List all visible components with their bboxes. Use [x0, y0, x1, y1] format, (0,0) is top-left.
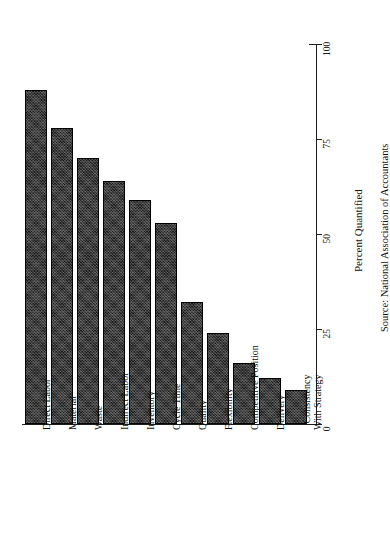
category-label-line: Cycle Time	[171, 384, 182, 430]
bar	[51, 128, 73, 424]
bar-series	[0, 0, 390, 548]
source-note: Source: National Association of Accounta…	[379, 144, 390, 332]
bar	[25, 90, 47, 424]
value-axis-title: Percent Quantified	[352, 189, 364, 272]
category-label: ConsistencyWith Strategy	[301, 375, 323, 430]
category-label: Competitive Position	[249, 345, 260, 430]
category-label: Indirect Labor	[119, 373, 130, 430]
category-label: Delivery	[275, 395, 286, 430]
category-label: Quality	[197, 400, 208, 430]
category-label: Inventory	[145, 391, 156, 430]
category-label: Flexibility	[223, 388, 234, 430]
category-label-line: Competitive Position	[249, 345, 260, 430]
bar	[77, 158, 99, 424]
category-label: Material	[67, 396, 78, 430]
bar-chart: 0255075100 Direct LaborMaterialWasteIndi…	[0, 0, 390, 548]
category-label: Cycle Time	[171, 384, 182, 430]
category-label-line: Material	[67, 396, 78, 430]
category-label-line: Inventory	[145, 391, 156, 430]
category-label-line: Direct Labor	[41, 379, 52, 430]
category-label-line: Delivery	[275, 395, 286, 430]
category-label: Direct Labor	[41, 379, 52, 430]
category-label-line: Quality	[197, 400, 208, 430]
category-label-line: Waste	[93, 406, 104, 430]
category-label-line: With Strategy	[312, 375, 323, 430]
category-label-line: Indirect Labor	[119, 373, 130, 430]
category-label-line: Consistency	[301, 375, 312, 430]
category-label-line: Flexibility	[223, 388, 234, 430]
category-label: Waste	[93, 406, 104, 430]
